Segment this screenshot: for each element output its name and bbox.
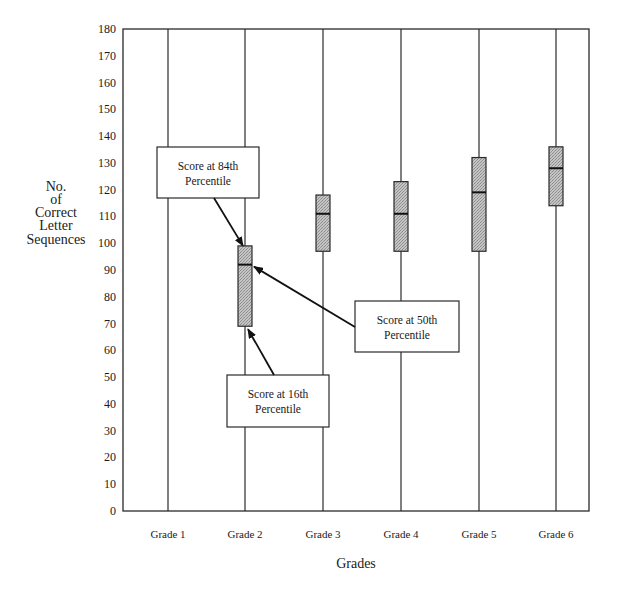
- y-tick-label: 170: [98, 49, 116, 63]
- y-tick-label: 180: [98, 22, 116, 36]
- x-axis-title-text: Grades: [336, 556, 376, 571]
- y-tick-label: 160: [98, 76, 116, 90]
- annotation-text: Percentile: [255, 403, 301, 415]
- box-plot-chart: 0102030405060708090100110120130140150160…: [0, 0, 617, 593]
- annotation-box: [227, 375, 329, 427]
- box-grade-6: [549, 147, 563, 206]
- box-grade-5: [472, 158, 486, 252]
- x-axis-labels: Grade 1Grade 2Grade 3Grade 4Grade 5Grade…: [150, 528, 574, 540]
- grade-lines: [168, 29, 556, 511]
- plot-frame: [123, 29, 589, 511]
- y-axis-ticks: 0102030405060708090100110120130140150160…: [98, 22, 116, 518]
- y-tick-label: 110: [98, 209, 116, 223]
- annotation-text: Score at 84th: [178, 160, 239, 172]
- annotation-text: Percentile: [384, 329, 430, 341]
- x-tick-label: Grade 1: [150, 528, 185, 540]
- annotation-arrow-icon: [254, 267, 355, 327]
- y-tick-label: 150: [98, 102, 116, 116]
- y-tick-label: 0: [110, 504, 116, 518]
- y-axis-title-line: Sequences: [26, 232, 85, 247]
- box-grade-4: [394, 182, 408, 252]
- box-grade-3: [316, 195, 330, 251]
- annotation-text: Percentile: [185, 175, 231, 187]
- annotation-text: Score at 16th: [248, 388, 309, 400]
- y-tick-label: 140: [98, 129, 116, 143]
- y-tick-label: 130: [98, 156, 116, 170]
- x-tick-label: Grade 4: [383, 528, 419, 540]
- y-tick-label: 100: [98, 236, 116, 250]
- plot-border: [123, 29, 589, 511]
- annotation-box: [355, 301, 459, 352]
- y-tick-label: 120: [98, 183, 116, 197]
- y-tick-label: 90: [104, 263, 116, 277]
- box-grade-2: [238, 246, 252, 326]
- annotations: Score at 84thPercentileScore at 50thPerc…: [157, 147, 459, 427]
- y-tick-label: 80: [104, 290, 116, 304]
- annotation-arrow-icon: [248, 329, 274, 375]
- annotation-50th-percentile: Score at 50thPercentile: [254, 267, 459, 352]
- y-tick-label: 40: [104, 397, 116, 411]
- y-tick-label: 30: [104, 424, 116, 438]
- y-tick-label: 70: [104, 317, 116, 331]
- annotation-16th-percentile: Score at 16thPercentile: [227, 329, 329, 427]
- y-tick-label: 50: [104, 370, 116, 384]
- annotation-text: Score at 50th: [377, 314, 438, 326]
- x-tick-label: Grade 2: [227, 528, 262, 540]
- annotation-84th-percentile: Score at 84thPercentile: [157, 147, 259, 246]
- y-tick-label: 10: [104, 477, 116, 491]
- x-tick-label: Grade 6: [538, 528, 574, 540]
- y-axis-title-line: Letter: [39, 218, 73, 233]
- annotation-arrow-icon: [214, 198, 243, 246]
- x-tick-label: Grade 5: [461, 528, 497, 540]
- y-tick-label: 60: [104, 343, 116, 357]
- annotation-box: [157, 147, 259, 198]
- y-axis-title: No.ofCorrectLetterSequences: [26, 179, 85, 247]
- x-tick-label: Grade 3: [305, 528, 341, 540]
- y-tick-label: 20: [104, 450, 116, 464]
- x-axis-title: Grades: [336, 556, 376, 571]
